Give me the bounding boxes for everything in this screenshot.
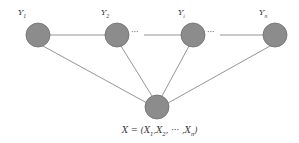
edge-yn-x: [168, 46, 270, 103]
label-y1-sub: 1: [23, 13, 26, 19]
node-x: [145, 95, 169, 119]
edge-y1-x: [43, 46, 147, 103]
node-y2: [105, 23, 129, 47]
graph-diagram: [0, 0, 299, 143]
label-y2-sub: 2: [106, 13, 109, 19]
ellipsis-after-yi: ···: [207, 28, 215, 37]
edge-yi-x: [162, 46, 189, 96]
formula-close: ): [194, 125, 197, 135]
label-y1: Y1: [18, 8, 26, 19]
label-yn-sub: n: [264, 13, 267, 19]
label-yi: Yi: [178, 8, 185, 19]
formula-eq: = (: [128, 125, 144, 135]
label-y2: Y2: [101, 8, 109, 19]
formula-mid: , ··· ,: [166, 125, 185, 135]
label-yi-sub: i: [183, 13, 185, 19]
edge-y2-x: [121, 46, 152, 96]
label-yn: Yn: [259, 8, 268, 19]
formula-x-definition: X = (X1,X2, ··· ,Xn): [122, 125, 198, 137]
node-yn: [263, 23, 287, 47]
node-yi: [181, 23, 205, 47]
node-y1: [26, 23, 50, 47]
ellipsis-after-y2: ···: [131, 28, 139, 37]
